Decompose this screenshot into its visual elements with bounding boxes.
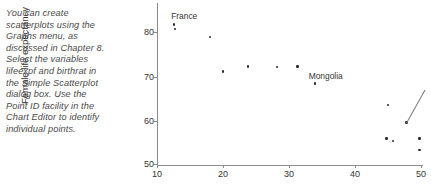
x-tick-label-40: 40 bbox=[340, 169, 370, 181]
data-point bbox=[296, 65, 298, 67]
y-tick-label-60: 60 bbox=[118, 116, 154, 126]
annotation-leader-line bbox=[406, 90, 425, 123]
data-point bbox=[276, 66, 278, 68]
x-tick-text: 20 bbox=[208, 169, 238, 179]
y-axis-line bbox=[157, 3, 158, 165]
point-label-france: France bbox=[171, 11, 197, 21]
y-tick-label-70: 70 bbox=[118, 72, 154, 82]
x-tick-label-50: 50 bbox=[406, 169, 431, 181]
y-tick-text: 70 bbox=[128, 72, 154, 82]
x-tick-text: 40 bbox=[340, 169, 370, 179]
data-point bbox=[173, 23, 175, 25]
x-tick-mark bbox=[223, 165, 224, 168]
data-point bbox=[385, 137, 387, 139]
data-point bbox=[387, 104, 389, 106]
data-point bbox=[174, 28, 176, 30]
y-tick-mark bbox=[154, 121, 157, 122]
x-tick-mark bbox=[421, 165, 422, 168]
y-axis-label: Female life expectancy bbox=[19, 0, 30, 126]
x-axis-line bbox=[157, 165, 423, 166]
data-point bbox=[314, 82, 316, 84]
x-tick-mark bbox=[355, 165, 356, 168]
x-tick-label-20: 20 bbox=[208, 169, 238, 181]
x-tick-label-30: 30 bbox=[274, 169, 304, 181]
y-tick-label-80: 80 bbox=[118, 27, 154, 37]
data-point bbox=[247, 65, 249, 67]
y-tick-mark bbox=[154, 77, 157, 78]
y-tick-text: 50 bbox=[128, 159, 154, 169]
x-tick-mark bbox=[289, 165, 290, 168]
data-point bbox=[222, 70, 224, 72]
y-tick-label-50: 50 bbox=[118, 159, 154, 169]
x-tick-text: 50 bbox=[406, 169, 431, 179]
y-tick-mark bbox=[154, 32, 157, 33]
data-point bbox=[392, 140, 394, 142]
data-point bbox=[418, 137, 420, 139]
point-label-mongolia: Mongolia bbox=[309, 71, 343, 81]
data-point bbox=[418, 149, 420, 151]
y-tick-text: 60 bbox=[128, 116, 154, 126]
x-tick-text: 30 bbox=[274, 169, 304, 179]
y-tick-text: 80 bbox=[128, 27, 154, 37]
x-tick-text: 10 bbox=[142, 169, 172, 179]
x-tick-mark bbox=[157, 165, 158, 168]
data-point bbox=[209, 36, 211, 38]
x-tick-label-10: 10 bbox=[142, 169, 172, 181]
